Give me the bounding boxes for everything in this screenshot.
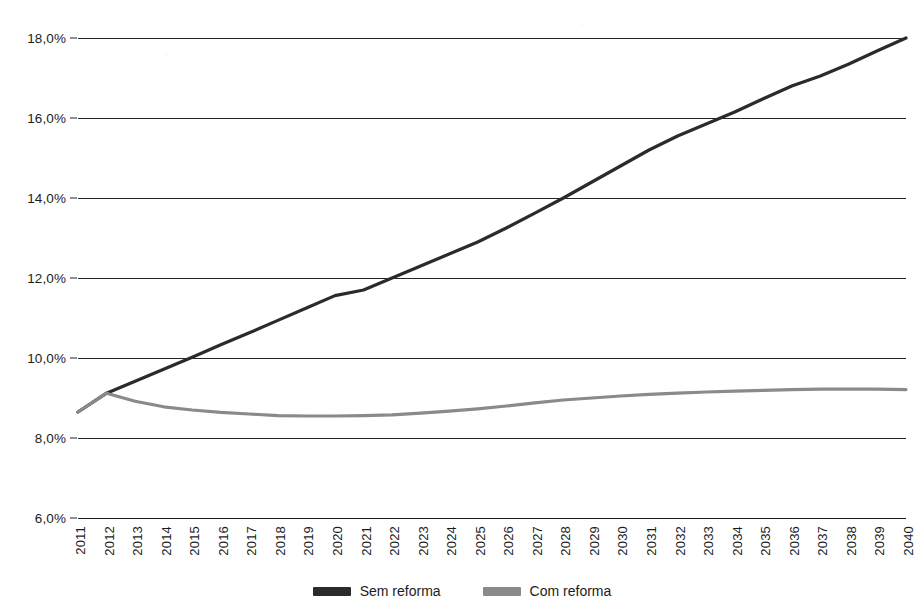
x-tick-label: 2012 [102, 526, 117, 556]
x-tick-label: 2016 [216, 526, 231, 556]
y-tick-mark [70, 38, 77, 39]
y-tick-label: 14,0% [27, 191, 66, 206]
legend-item: Sem reforma [313, 583, 441, 599]
x-tick-label: 2017 [244, 526, 259, 556]
series-line [78, 38, 906, 412]
x-tick-label: 2025 [473, 526, 488, 556]
plot-area [78, 38, 906, 518]
y-tick-label: 18,0% [27, 31, 66, 46]
legend-item: Com reforma [483, 583, 612, 599]
x-tick-label: 2027 [530, 526, 545, 556]
y-tick-label: 16,0% [27, 111, 66, 126]
x-tick-label: 2030 [615, 526, 630, 556]
y-tick-mark [70, 518, 77, 519]
x-tick-label: 2014 [159, 526, 174, 556]
x-tick-label: 2024 [444, 526, 459, 556]
x-tick-label: 2022 [387, 526, 402, 556]
legend-label: Sem reforma [360, 583, 441, 599]
series-line [78, 389, 906, 416]
y-tick-mark [70, 358, 77, 359]
y-tick-mark [70, 198, 77, 199]
x-tick-label: 2031 [644, 526, 659, 556]
x-tick-label: 2040 [901, 526, 916, 556]
x-axis: 2011201220132014201520162017201820192020… [78, 522, 906, 582]
y-tick-label: 8,0% [35, 431, 66, 446]
x-tick-label: 2034 [730, 526, 745, 556]
x-tick-label: 2033 [701, 526, 716, 556]
y-tick-label: 12,0% [27, 271, 66, 286]
x-tick-label: 2035 [758, 526, 773, 556]
chart-legend: Sem reformaCom reforma [0, 583, 924, 599]
x-tick-label: 2036 [787, 526, 802, 556]
y-tick-mark [70, 278, 77, 279]
x-tick-label: 2018 [273, 526, 288, 556]
y-tick-mark [70, 438, 77, 439]
y-tick-mark [70, 118, 77, 119]
x-tick-label: 2020 [330, 526, 345, 556]
y-tick-label: 10,0% [27, 351, 66, 366]
x-tick-label: 2015 [187, 526, 202, 556]
legend-swatch [483, 587, 521, 596]
x-tick-label: 2021 [359, 526, 374, 556]
x-tick-label: 2026 [501, 526, 516, 556]
x-tick-label: 2019 [301, 526, 316, 556]
x-tick-label: 2013 [130, 526, 145, 556]
x-axis-line [78, 518, 906, 519]
x-tick-label: 2028 [558, 526, 573, 556]
y-axis: 18,0%16,0%14,0%12,0%10,0%8,0%6,0% [0, 0, 66, 616]
legend-label: Com reforma [530, 583, 612, 599]
x-tick-label: 2029 [587, 526, 602, 556]
line-chart: 18,0%16,0%14,0%12,0%10,0%8,0%6,0% 201120… [0, 0, 924, 616]
series-layer [78, 38, 906, 518]
y-tick-label: 6,0% [35, 511, 66, 526]
x-tick-label: 2038 [844, 526, 859, 556]
x-tick-label: 2032 [673, 526, 688, 556]
x-tick-label: 2011 [73, 526, 88, 555]
x-tick-label: 2037 [815, 526, 830, 556]
x-tick-label: 2039 [872, 526, 887, 556]
legend-swatch [313, 587, 351, 596]
x-tick-label: 2023 [416, 526, 431, 556]
